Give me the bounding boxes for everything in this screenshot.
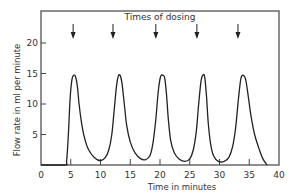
arrow-down-icon	[110, 32, 115, 39]
x-tick-label: 25	[184, 170, 195, 180]
x-tick-label: 30	[214, 170, 226, 180]
dosing-annotation: Times of dosing	[124, 12, 196, 22]
y-tick-label: 10	[27, 99, 39, 109]
x-tick-label: 20	[154, 170, 166, 180]
x-axis-label: Time in minutes	[147, 182, 217, 192]
dosing-arrows	[71, 24, 241, 39]
y-axis-ticks: 5101520	[27, 38, 46, 140]
arrow-down-icon	[194, 32, 199, 39]
x-axis-ticks: 0510152025303540	[38, 159, 285, 180]
flow-rate-chart: 5101520 0510152025303540 Times of dosing…	[0, 0, 299, 195]
x-tick-label: 10	[95, 170, 107, 180]
y-tick-label: 20	[27, 38, 39, 48]
y-tick-label: 5	[32, 130, 38, 140]
x-tick-label: 5	[68, 170, 74, 180]
plot-frame	[41, 11, 279, 165]
x-tick-label: 35	[244, 170, 255, 180]
x-tick-label: 15	[125, 170, 136, 180]
x-tick-label: 0	[38, 170, 44, 180]
flow-rate-curve	[41, 74, 267, 165]
arrow-down-icon	[235, 32, 240, 39]
y-axis-label: Flow rate in ml per minute	[12, 44, 22, 157]
arrow-down-icon	[71, 32, 76, 39]
y-tick-label: 15	[27, 69, 38, 79]
arrow-down-icon	[153, 32, 158, 39]
x-tick-label: 40	[273, 170, 285, 180]
